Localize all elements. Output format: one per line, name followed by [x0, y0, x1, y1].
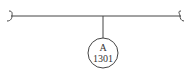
node-label-line1: A [99, 42, 107, 53]
node-label-line2: 1301 [93, 53, 113, 64]
right-break-mark [179, 11, 184, 21]
bus-diagram: A 1301 [0, 0, 191, 83]
